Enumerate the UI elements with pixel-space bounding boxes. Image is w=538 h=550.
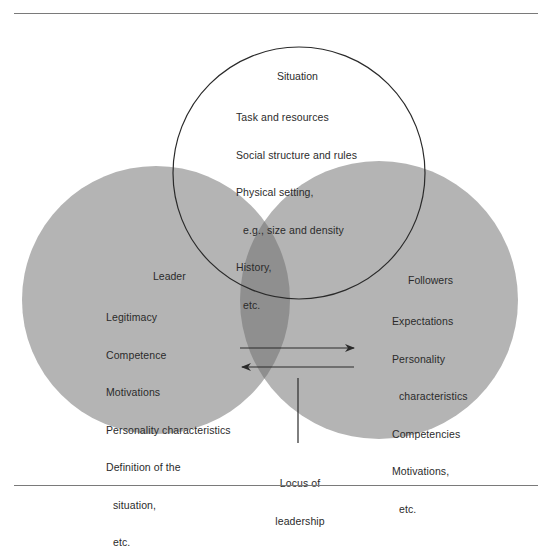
leader-item: Motivations [106,386,231,399]
situation-item: Social structure and rules [236,149,357,162]
situation-title: Situation [277,70,318,82]
followers-item: Competencies [392,428,468,441]
leader-item: Legitimacy [106,311,231,324]
locus-label-line2: leadership [268,515,332,528]
followers-list: Expectations Personality characteristics… [392,290,468,528]
followers-item: Personality [392,353,468,366]
locus-label-line1: Locus of [268,477,332,490]
followers-item: characteristics [392,390,468,403]
leader-item: etc. [106,536,231,549]
situation-item: Task and resources [236,111,357,124]
bottom-rule [14,485,538,486]
situation-item: etc. [236,299,357,312]
followers-item: Expectations [392,315,468,328]
leader-title: Leader [153,270,186,282]
followers-item: Motivations, [392,465,468,478]
leader-item: Competence [106,349,231,362]
leader-item: situation, [106,499,231,512]
situation-item: Physical setting, [236,186,357,199]
leader-list: Legitimacy Competence Motivations Person… [106,286,231,550]
leader-item: Definition of the [106,461,231,474]
followers-item: etc. [392,503,468,516]
followers-title: Followers [408,274,453,286]
situation-list: Task and resources Social structure and … [236,86,357,324]
situation-item: History, [236,261,357,274]
leader-item: Personality characteristics [106,424,231,437]
situation-item: e.g., size and density [236,224,357,237]
locus-label: Locus of leadership [268,452,332,540]
